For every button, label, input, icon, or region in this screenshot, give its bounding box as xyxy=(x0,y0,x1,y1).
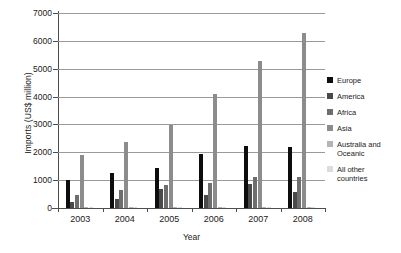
bar xyxy=(164,185,168,208)
legend-item[interactable]: Europe xyxy=(327,76,401,85)
x-axis-tick-label: 2005 xyxy=(146,214,192,224)
legend-label: Europe xyxy=(337,76,361,85)
legend-item[interactable]: Australia and Oceanic xyxy=(327,140,401,158)
bar xyxy=(218,207,222,208)
y-axis-tick-label: 6000 xyxy=(12,37,52,46)
legend-swatch-icon xyxy=(327,166,333,172)
legend-label: Asia xyxy=(337,124,352,133)
y-axis-tick-label: 4000 xyxy=(12,93,52,102)
x-axis-title: Year xyxy=(58,232,325,242)
bar xyxy=(173,207,177,208)
x-axis-tick-label: 2008 xyxy=(280,214,326,224)
bar xyxy=(311,207,315,208)
bar xyxy=(204,195,208,208)
bar xyxy=(75,195,79,208)
bar xyxy=(80,155,84,208)
bar-group xyxy=(288,13,315,208)
bar xyxy=(302,33,306,208)
bar xyxy=(124,142,128,208)
y-axis-tick-label: 0 xyxy=(12,204,52,213)
bar xyxy=(110,173,114,208)
x-axis-tick xyxy=(103,208,104,212)
x-axis-tick-label: 2003 xyxy=(57,214,103,224)
legend-item[interactable]: Africa xyxy=(327,108,401,117)
bar xyxy=(248,184,252,208)
legend-label: All other countries xyxy=(337,165,367,183)
bar xyxy=(115,199,119,208)
bar xyxy=(89,207,93,208)
bar xyxy=(169,125,173,208)
bar xyxy=(178,207,182,208)
x-axis-tick-label: 2006 xyxy=(191,214,237,224)
bar xyxy=(297,177,301,208)
x-axis-tick xyxy=(325,208,326,212)
bar xyxy=(262,207,266,208)
bar xyxy=(70,202,74,208)
chart-legend: EuropeAmericaAfricaAsiaAustralia and Oce… xyxy=(327,76,401,190)
bar xyxy=(222,207,226,208)
bar-group xyxy=(244,13,271,208)
legend-item[interactable]: America xyxy=(327,92,401,101)
x-axis-tick xyxy=(58,208,59,212)
x-axis-line xyxy=(52,208,325,209)
plot-area xyxy=(58,13,325,208)
bar xyxy=(267,207,271,208)
bar xyxy=(288,147,292,208)
bar xyxy=(119,190,123,208)
legend-swatch-icon xyxy=(327,141,333,147)
y-axis-tick-label: 2000 xyxy=(12,148,52,157)
legend-label: America xyxy=(337,92,365,101)
bar xyxy=(199,154,203,208)
bar xyxy=(84,207,88,208)
x-axis-tick xyxy=(192,208,193,212)
bar xyxy=(155,168,159,208)
legend-item[interactable]: Asia xyxy=(327,124,401,133)
legend-label: Australia and Oceanic xyxy=(337,140,381,158)
bar xyxy=(208,183,212,208)
y-axis-tick-label: 3000 xyxy=(12,120,52,129)
bar xyxy=(213,94,217,208)
bar-group xyxy=(66,13,93,208)
bar xyxy=(133,207,137,208)
y-axis-title: Imports (US$ million) xyxy=(23,33,33,193)
bar xyxy=(307,207,311,208)
x-axis-tick-label: 2004 xyxy=(102,214,148,224)
legend-swatch-icon xyxy=(327,93,333,99)
x-axis-tick-label: 2007 xyxy=(235,214,281,224)
bar-group xyxy=(110,13,137,208)
y-axis-tick-label: 7000 xyxy=(12,9,52,18)
x-axis-tick xyxy=(147,208,148,212)
y-axis-tick-label: 5000 xyxy=(12,65,52,74)
bar xyxy=(244,146,248,208)
legend-label: Africa xyxy=(337,108,356,117)
bar xyxy=(293,192,297,208)
legend-swatch-icon xyxy=(327,109,333,115)
legend-item[interactable]: All other countries xyxy=(327,165,401,183)
legend-swatch-icon xyxy=(327,77,333,83)
x-axis-tick xyxy=(236,208,237,212)
bar xyxy=(159,189,163,209)
x-axis-tick xyxy=(281,208,282,212)
bar xyxy=(129,207,133,208)
bar-group xyxy=(199,13,226,208)
legend-swatch-icon xyxy=(327,125,333,131)
bar-chart: Imports (US$ million) 010002000300040005… xyxy=(0,0,401,253)
bar-group xyxy=(155,13,182,208)
bar xyxy=(253,177,257,208)
bar xyxy=(258,61,262,208)
y-axis-tick-label: 1000 xyxy=(12,176,52,185)
bar xyxy=(66,180,70,208)
